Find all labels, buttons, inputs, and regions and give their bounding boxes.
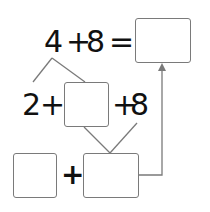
bottom-box-1[interactable] (13, 153, 57, 198)
result-arrow-line (138, 70, 162, 175)
top-left-operand: 4 (44, 27, 63, 57)
top-equals-sign: = (109, 27, 134, 57)
split-line-right (52, 58, 85, 82)
top-right-operand: 8 (86, 27, 105, 57)
middle-plus-sign-1: + (40, 90, 65, 120)
middle-first-term: 2 (22, 90, 41, 120)
number-bond-diagram: 4 + 8 = 2 + + 8 + (0, 0, 210, 212)
split-line-left (33, 58, 52, 82)
merge-line-right (110, 123, 137, 153)
middle-blank-box[interactable] (64, 82, 109, 127)
answer-box[interactable] (135, 18, 191, 63)
arrow-head-icon (158, 63, 166, 71)
bottom-box-2[interactable] (83, 153, 139, 198)
middle-last-term: 8 (130, 90, 149, 120)
merge-line-left (84, 127, 110, 153)
bottom-plus-sign: + (61, 160, 84, 190)
